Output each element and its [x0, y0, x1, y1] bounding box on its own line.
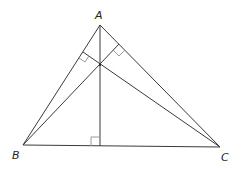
altitude-from-b — [23, 44, 119, 145]
diagram-svg: A B C — [0, 0, 242, 169]
label-b: B — [12, 149, 20, 162]
label-a: A — [94, 9, 103, 22]
right-angle-mark-bc — [91, 137, 100, 146]
altitude-from-c — [83, 52, 220, 147]
right-angle-mark-ac — [113, 50, 125, 56]
triangle-diagram: A B C — [0, 0, 242, 169]
right-angle-mark-ab — [79, 56, 89, 62]
label-c: C — [221, 151, 229, 164]
orthocenter-point — [99, 64, 101, 66]
triangle-abc — [23, 25, 220, 147]
